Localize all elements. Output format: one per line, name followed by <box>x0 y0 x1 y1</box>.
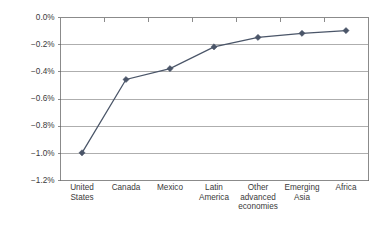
x-axis-tick-label-line: States <box>70 193 93 202</box>
x-axis-tick-label-line: Emerging <box>284 183 319 192</box>
x-axis-tick-label-line: Canada <box>112 183 141 192</box>
y-axis-tick-label: −1.0% <box>31 149 54 158</box>
x-axis-tick-label: Otheradvancedeconomies <box>238 183 278 211</box>
series-markers-group <box>79 27 349 155</box>
line-chart: 0.0%−0.2%−0.4%−0.6%−0.8%−1.0%−1.2% Unite… <box>0 0 389 230</box>
series-data-point <box>255 34 261 40</box>
x-axis-tick-label-line: Latin <box>205 183 223 192</box>
y-axis-labels-group: 0.0%−0.2%−0.4%−0.6%−0.8%−1.0%−1.2% <box>31 13 54 185</box>
series-data-point <box>79 150 85 156</box>
series-data-point <box>167 66 173 72</box>
series-data-point <box>123 76 129 82</box>
y-axis-tick-label: −0.8% <box>31 121 54 130</box>
plot-frame-group <box>61 18 369 181</box>
x-axis-tick-label-line: United <box>70 183 94 192</box>
x-axis-tick-label: Africa <box>336 183 357 192</box>
y-axis-tick-label: −1.2% <box>31 176 54 185</box>
gridlines-group <box>60 45 368 154</box>
x-axis-tick-label-line: America <box>199 193 229 202</box>
series-data-point <box>299 30 305 36</box>
y-axis-tick-label: 0.0% <box>36 13 55 22</box>
x-axis-tick-label-line: Other <box>248 183 269 192</box>
y-axis-tick-label: −0.6% <box>31 94 54 103</box>
x-axis-tick-label: EmergingAsia <box>284 183 319 202</box>
x-axis-tick-label: Canada <box>112 183 141 192</box>
x-axis-tick-label-line: economies <box>238 202 278 211</box>
x-axis-tick-label-line: Asia <box>294 193 310 202</box>
x-tickmarks-group <box>105 18 325 22</box>
y-axis-tick-label: −0.4% <box>31 67 54 76</box>
x-axis-tick-label-line: advanced <box>240 193 276 202</box>
x-axis-tick-label: Mexico <box>157 183 183 192</box>
x-axis-tick-label: UnitedStates <box>70 183 94 202</box>
y-tickmarks-group <box>58 18 61 181</box>
chart-container: 0.0%−0.2%−0.4%−0.6%−0.8%−1.0%−1.2% Unite… <box>0 0 389 230</box>
x-axis-labels-group: UnitedStatesCanadaMexicoLatinAmericaOthe… <box>70 183 357 211</box>
x-axis-tick-label-line: Africa <box>336 183 357 192</box>
x-axis-tick-label: LatinAmerica <box>199 183 229 202</box>
y-axis-tick-label: −0.2% <box>31 40 54 49</box>
x-axis-tick-label-line: Mexico <box>157 183 183 192</box>
series-data-point <box>343 27 349 33</box>
